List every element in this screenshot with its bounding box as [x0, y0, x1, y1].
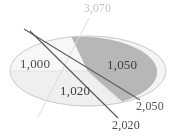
callout-label-2050: 2,050: [136, 100, 164, 112]
callout-label-2020: 2,020: [112, 119, 140, 131]
pie-chart: 1,000 1,050 1,020 3,070 2,050 2,020: [0, 0, 178, 140]
slice-label-1050: 1,050: [107, 58, 137, 71]
callout-label-3070: 3,070: [84, 3, 111, 15]
slice-label-1000: 1,000: [20, 57, 50, 70]
slice-label-1020: 1,020: [60, 84, 90, 97]
